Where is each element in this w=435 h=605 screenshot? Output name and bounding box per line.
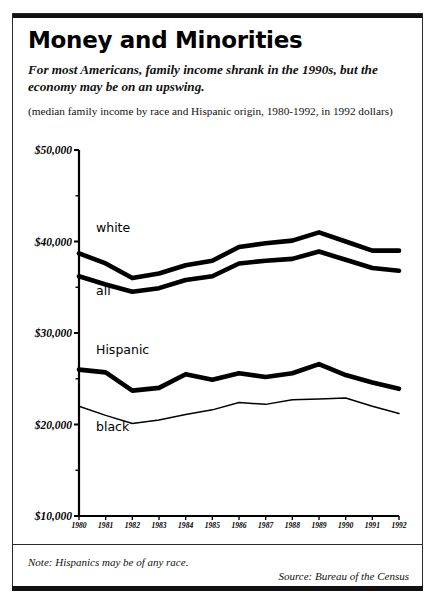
series-label-white: white bbox=[96, 220, 130, 235]
y-tick-label: $50,000 bbox=[14, 144, 72, 156]
series-label-black: black bbox=[96, 419, 129, 434]
chart-note: Note: Hispanics may be of any race. bbox=[28, 556, 188, 568]
figure-panel: Money and Minorities For most Americans,… bbox=[0, 0, 435, 605]
series-line-hispanic bbox=[79, 364, 399, 391]
x-tick-label: 1988 bbox=[277, 521, 307, 530]
x-tick-label: 1986 bbox=[224, 521, 254, 530]
series-label-hispanic: Hispanic bbox=[96, 342, 149, 357]
x-tick-label: 1983 bbox=[144, 521, 174, 530]
x-tick-label: 1982 bbox=[117, 521, 147, 530]
y-tick-label: $30,000 bbox=[14, 327, 72, 339]
chart-axes bbox=[74, 150, 399, 520]
x-tick-label: 1985 bbox=[197, 521, 227, 530]
x-tick-label: 1984 bbox=[171, 521, 201, 530]
series-line-white bbox=[79, 232, 399, 278]
series-label-all: all bbox=[96, 283, 111, 298]
y-tick-label: $40,000 bbox=[14, 236, 72, 248]
note-divider bbox=[13, 544, 422, 545]
x-tick-label: 1981 bbox=[91, 521, 121, 530]
x-tick-label: 1987 bbox=[251, 521, 281, 530]
bottom-rule bbox=[12, 586, 423, 591]
x-tick-label: 1980 bbox=[64, 521, 94, 530]
x-tick-label: 1989 bbox=[304, 521, 334, 530]
x-tick-label: 1992 bbox=[384, 521, 414, 530]
x-tick-label: 1991 bbox=[357, 521, 387, 530]
chart-series bbox=[79, 232, 399, 423]
y-tick-label: $20,000 bbox=[14, 419, 72, 431]
chart-source: Source: Bureau of the Census bbox=[278, 570, 409, 582]
series-line-all bbox=[79, 252, 399, 292]
x-tick-label: 1990 bbox=[331, 521, 361, 530]
